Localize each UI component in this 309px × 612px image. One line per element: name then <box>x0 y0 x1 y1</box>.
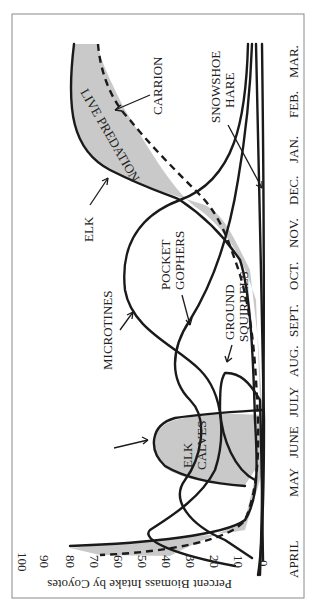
label-elk-calves-1: ELK <box>180 442 195 468</box>
coyote-diet-chart: CARRION LIVE PREDATION ELK SNOWSHOE HARE… <box>0 0 309 612</box>
tick-40: 40 <box>159 555 174 568</box>
month-june: JUNE <box>286 426 301 458</box>
month-may: MAY <box>286 467 301 497</box>
tick-10: 10 <box>231 555 246 568</box>
label-elk: ELK <box>81 216 96 242</box>
label-snowshoe-2: HARE <box>222 73 237 108</box>
tick-70: 70 <box>87 555 102 568</box>
month-nov: NOV. <box>286 218 301 248</box>
label-elk-calves-2: CALVES <box>194 421 209 470</box>
label-snowshoe-1: SNOWSHOE <box>208 51 223 123</box>
tick-50: 50 <box>135 555 150 568</box>
tick-0: 0 <box>256 560 271 567</box>
month-aug: AUG. <box>286 346 301 377</box>
month-dec: DEC. <box>286 176 301 205</box>
label-pocket-2: GOPHERS <box>172 231 187 290</box>
x-axis-months: APRIL MAY JUNE JULY AUG. SEPT. OCT. NOV.… <box>286 45 301 578</box>
month-sept: SEPT. <box>286 304 301 337</box>
month-oct: OCT. <box>286 262 301 290</box>
label-ground-1: GROUND <box>222 284 237 340</box>
label-microtines: MICROTINES <box>100 291 115 370</box>
y-axis-ticks: 100 90 80 70 60 50 40 30 20 10 0 <box>15 552 271 572</box>
month-jan: JAN. <box>286 136 301 163</box>
tick-80: 80 <box>63 555 78 568</box>
label-pocket-1: POCKET <box>158 239 173 290</box>
tick-100: 100 <box>15 552 30 572</box>
label-ground-2: SQUIRRELS <box>236 271 251 342</box>
tick-90: 90 <box>37 555 52 568</box>
tick-30: 30 <box>183 555 198 568</box>
tick-60: 60 <box>111 555 126 568</box>
y-axis-label: Percent Biomass Intake by Coyotes <box>47 577 232 592</box>
month-july: JULY <box>286 386 301 417</box>
label-carrion: CARRION <box>150 56 165 115</box>
month-mar: MAR. <box>286 45 301 78</box>
tick-20: 20 <box>207 555 222 568</box>
month-feb: FEB. <box>286 91 301 118</box>
month-april: APRIL <box>286 540 301 578</box>
